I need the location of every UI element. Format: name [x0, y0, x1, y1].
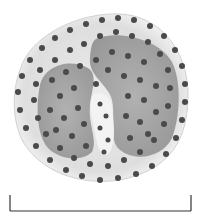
scale-bar — [10, 195, 191, 211]
cell-figure — [0, 0, 202, 220]
cell-illustration — [0, 0, 202, 220]
